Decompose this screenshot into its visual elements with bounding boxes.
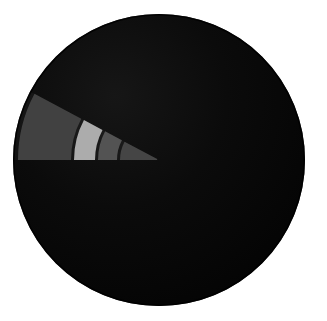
figure-canvas [0,0,327,321]
polar-disc-chart [0,0,327,321]
